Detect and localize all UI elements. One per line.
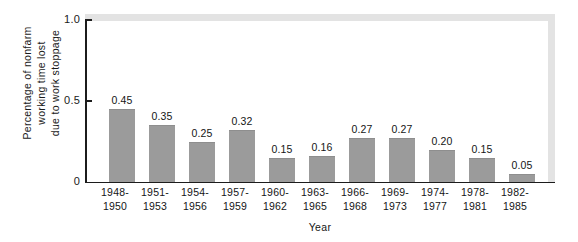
bar[interactable] xyxy=(469,158,495,182)
bar[interactable] xyxy=(109,109,135,182)
bar-value-label: 0.15 xyxy=(462,144,502,155)
bar[interactable] xyxy=(349,138,375,182)
bar-slot: 0.16 xyxy=(302,20,342,182)
bar-value-label: 0.15 xyxy=(262,144,302,155)
bar-value-label: 0.25 xyxy=(182,128,222,139)
bar-chart: 00.51.0 Percentage of nonfarm working ti… xyxy=(0,0,578,242)
bar[interactable] xyxy=(229,130,255,182)
bar-slot: 0.35 xyxy=(142,20,182,182)
bar-slot: 0.25 xyxy=(182,20,222,182)
bar-value-label: 0.27 xyxy=(342,124,382,135)
bar-value-label: 0.35 xyxy=(142,111,182,122)
bar[interactable] xyxy=(309,156,335,182)
plot-area: 0.450.350.250.320.150.160.270.270.200.15… xyxy=(85,20,555,182)
bar[interactable] xyxy=(429,150,455,182)
y-axis-title-line-1: Percentage of nonfarm xyxy=(20,0,34,168)
bar[interactable] xyxy=(389,138,415,182)
bar-value-label: 0.27 xyxy=(382,124,422,135)
bar-slot: 0.20 xyxy=(422,20,462,182)
bar[interactable] xyxy=(149,125,175,182)
bar[interactable] xyxy=(509,174,535,182)
y-axis-tick-label: 0 xyxy=(50,176,80,187)
bar-value-label: 0.20 xyxy=(422,136,462,147)
y-axis-title-line-3: due to work stoppage xyxy=(48,0,62,168)
y-axis-title: Percentage of nonfarm working time lost … xyxy=(20,0,62,168)
x-axis-tick-label-line: 1985 xyxy=(492,200,538,214)
bar-value-label: 0.05 xyxy=(502,160,542,171)
bar-slot: 0.32 xyxy=(222,20,262,182)
bar-slot: 0.27 xyxy=(382,20,422,182)
bar-value-label: 0.45 xyxy=(102,95,142,106)
bar-slot: 0.15 xyxy=(262,20,302,182)
bar-value-label: 0.32 xyxy=(222,116,262,127)
x-axis-tick-label: 1982-1985 xyxy=(492,186,538,213)
bar-slot: 0.45 xyxy=(102,20,142,182)
bar-slot: 0.15 xyxy=(462,20,502,182)
bar[interactable] xyxy=(189,142,215,183)
bar-slot: 0.27 xyxy=(342,20,382,182)
y-axis-title-line-2: working time lost xyxy=(34,0,48,168)
x-axis-title: Year xyxy=(85,221,555,233)
x-axis-tick-label-line: 1982- xyxy=(492,186,538,200)
bar-slot: 0.05 xyxy=(502,20,542,182)
bar-value-label: 0.16 xyxy=(302,142,342,153)
bar[interactable] xyxy=(269,158,295,182)
